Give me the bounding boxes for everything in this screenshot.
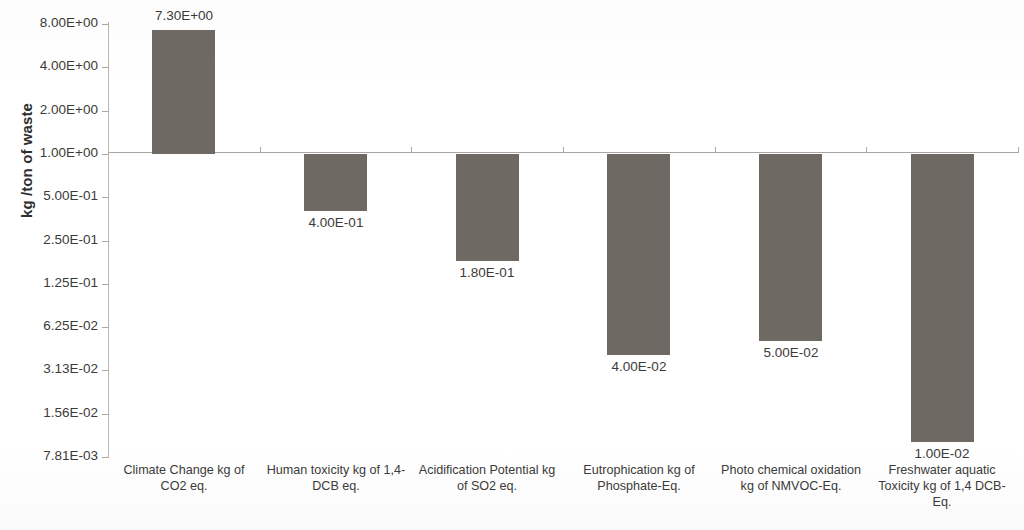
y-axis-tick-label: 2.50E-01 bbox=[2, 232, 98, 247]
bar-value-label: 1.00E-02 bbox=[872, 446, 1012, 461]
bar[interactable] bbox=[759, 154, 822, 341]
y-axis-tick-label: 8.00E+00 bbox=[2, 15, 98, 30]
y-axis-tick bbox=[102, 154, 109, 155]
bar[interactable] bbox=[456, 154, 519, 261]
lca-impact-bar-chart: kg /ton of waste 8.00E+004.00E+002.00E+0… bbox=[0, 0, 1024, 530]
x-axis-tick bbox=[563, 147, 564, 153]
bar[interactable] bbox=[152, 30, 215, 154]
bar[interactable] bbox=[911, 154, 974, 442]
y-axis-tick-label: 7.81E-03 bbox=[2, 448, 98, 463]
bar[interactable] bbox=[607, 154, 670, 355]
y-axis-tick bbox=[102, 197, 109, 198]
x-axis-category-label: Freshwater aquatic Toxicity kg of 1,4 DC… bbox=[869, 462, 1015, 510]
y-axis-title: kg /ton of waste bbox=[18, 71, 35, 251]
y-axis-tick-label: 5.00E-01 bbox=[2, 188, 98, 203]
x-axis-category-label: Photo chemical oxidation kg of NMVOC-Eq. bbox=[718, 462, 864, 494]
y-axis-tick bbox=[102, 414, 109, 415]
y-axis-tick bbox=[102, 457, 109, 458]
y-axis-tick-label: 1.25E-01 bbox=[2, 275, 98, 290]
y-axis-tick-label: 2.00E+00 bbox=[2, 102, 98, 117]
y-axis-tick bbox=[102, 327, 109, 328]
y-axis-tick-label: 6.25E-02 bbox=[2, 318, 98, 333]
bar[interactable] bbox=[304, 154, 367, 211]
y-axis-tick bbox=[102, 24, 109, 25]
y-axis-tick bbox=[102, 111, 109, 112]
bar-value-label: 1.80E-01 bbox=[417, 265, 557, 280]
x-axis-tick bbox=[866, 147, 867, 153]
bar-value-label: 5.00E-02 bbox=[721, 345, 861, 360]
bar-value-label: 7.30E+00 bbox=[114, 8, 254, 23]
x-axis-category-label: Human toxicity kg of 1,4- DCB eq. bbox=[263, 462, 409, 494]
x-axis-tick bbox=[1018, 147, 1019, 153]
x-axis-tick bbox=[411, 147, 412, 153]
bar-value-label: 4.00E-01 bbox=[266, 215, 406, 230]
y-axis-tick-label: 4.00E+00 bbox=[2, 58, 98, 73]
x-axis-category-label: Acidification Potential kg of SO2 eq. bbox=[414, 462, 560, 494]
x-axis-category-label: Climate Change kg of CO2 eq. bbox=[111, 462, 257, 494]
bar-value-label: 4.00E-02 bbox=[569, 359, 709, 374]
x-axis-tick bbox=[715, 147, 716, 153]
y-axis-tick bbox=[102, 284, 109, 285]
x-axis-category-label: Eutrophication kg of Phosphate-Eq. bbox=[566, 462, 712, 494]
x-axis-tick bbox=[260, 147, 261, 153]
y-axis-tick bbox=[102, 370, 109, 371]
y-axis-tick-label: 3.13E-02 bbox=[2, 361, 98, 376]
y-axis-tick-label: 1.56E-02 bbox=[2, 405, 98, 420]
y-axis-tick-label: 1.00E+00 bbox=[2, 145, 98, 160]
y-axis-tick bbox=[102, 241, 109, 242]
y-axis-tick bbox=[102, 67, 109, 68]
